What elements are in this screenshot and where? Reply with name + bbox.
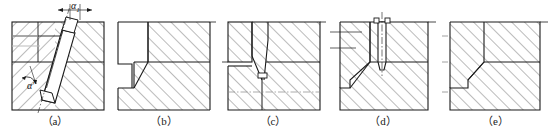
neck-detail	[258, 73, 267, 78]
panel-b-drawing	[110, 0, 218, 114]
punch-collar-left	[374, 18, 379, 23]
panel-a-caption: （a）	[0, 114, 110, 128]
panel-c-caption: （c）	[218, 114, 328, 128]
panel-d: （d）	[328, 0, 438, 138]
panel-e-caption: （e）	[438, 114, 553, 128]
panel-b-caption: （b）	[110, 114, 218, 128]
panel-c-drawing	[218, 0, 328, 114]
angle-label-alpha-prime: α′	[27, 80, 34, 91]
hatch	[110, 0, 218, 114]
panel-d-drawing	[328, 0, 438, 114]
angle-label-alpha-1: α1	[71, 0, 80, 14]
panel-e-drawing	[438, 0, 553, 114]
panel-d-caption: （d）	[328, 114, 438, 128]
panel-a: α1 α′ （a）	[0, 0, 110, 138]
panel-a-drawing	[0, 0, 110, 114]
notch-step	[118, 22, 132, 88]
panel-c: （c）	[218, 0, 328, 138]
punch-collar-right	[385, 18, 390, 23]
panel-b: （b）	[110, 0, 218, 138]
figure-root: α1 α′ （a）	[0, 0, 553, 138]
panel-e: （e）	[438, 0, 553, 138]
